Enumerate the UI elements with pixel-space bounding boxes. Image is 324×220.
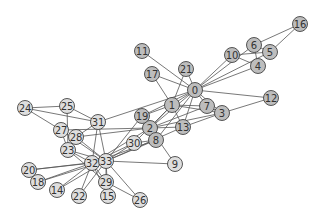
node-24: 24 bbox=[18, 101, 33, 116]
node-label: 27 bbox=[55, 125, 68, 136]
node-label: 5 bbox=[267, 47, 273, 58]
edge-9-33 bbox=[106, 161, 175, 164]
node-27: 27 bbox=[54, 123, 69, 138]
node-33: 33 bbox=[99, 154, 114, 169]
node-label: 21 bbox=[180, 64, 193, 75]
node-21: 21 bbox=[179, 62, 194, 77]
node-label: 10 bbox=[226, 50, 239, 61]
node-label: 30 bbox=[128, 138, 141, 149]
node-22: 22 bbox=[72, 189, 87, 204]
node-30: 30 bbox=[127, 136, 142, 151]
node-label: 11 bbox=[136, 46, 149, 57]
node-25: 25 bbox=[60, 99, 75, 114]
edge-0-4 bbox=[195, 66, 258, 90]
node-label: 19 bbox=[136, 111, 149, 122]
node-label: 22 bbox=[73, 191, 86, 202]
node-label: 15 bbox=[102, 191, 115, 202]
node-label: 24 bbox=[19, 103, 32, 114]
node-label: 4 bbox=[255, 61, 261, 72]
node-4: 4 bbox=[251, 59, 266, 74]
node-label: 0 bbox=[192, 85, 198, 96]
node-23: 23 bbox=[61, 143, 76, 158]
node-layer: 0123456789101112131415161718192021222324… bbox=[18, 17, 308, 208]
edge-0-12 bbox=[195, 90, 271, 98]
node-26: 26 bbox=[133, 193, 148, 208]
node-label: 9 bbox=[172, 159, 178, 170]
node-16: 16 bbox=[293, 17, 308, 32]
node-12: 12 bbox=[264, 91, 279, 106]
node-8: 8 bbox=[149, 133, 164, 148]
node-label: 3 bbox=[219, 108, 225, 119]
node-6: 6 bbox=[247, 38, 262, 53]
node-label: 32 bbox=[86, 158, 99, 169]
node-17: 17 bbox=[145, 67, 160, 82]
node-9: 9 bbox=[168, 157, 183, 172]
node-3: 3 bbox=[215, 106, 230, 121]
node-label: 17 bbox=[146, 69, 159, 80]
node-label: 26 bbox=[134, 195, 147, 206]
node-29: 29 bbox=[99, 175, 114, 190]
node-label: 1 bbox=[169, 100, 175, 111]
node-1: 1 bbox=[165, 98, 180, 113]
node-label: 23 bbox=[62, 145, 75, 156]
node-label: 29 bbox=[100, 177, 113, 188]
node-label: 2 bbox=[147, 123, 153, 134]
node-label: 16 bbox=[294, 19, 307, 30]
node-label: 25 bbox=[61, 101, 74, 112]
node-5: 5 bbox=[263, 45, 278, 60]
node-10: 10 bbox=[225, 48, 240, 63]
node-label: 6 bbox=[251, 40, 257, 51]
node-11: 11 bbox=[135, 44, 150, 59]
node-19: 19 bbox=[135, 109, 150, 124]
network-graph: 0123456789101112131415161718192021222324… bbox=[0, 0, 324, 220]
node-label: 28 bbox=[70, 132, 83, 143]
node-20: 20 bbox=[22, 163, 37, 178]
node-14: 14 bbox=[50, 183, 65, 198]
node-32: 32 bbox=[85, 156, 100, 171]
node-label: 7 bbox=[204, 101, 210, 112]
node-13: 13 bbox=[176, 120, 191, 135]
node-28: 28 bbox=[69, 130, 84, 145]
edge-0-6 bbox=[195, 45, 254, 90]
node-label: 8 bbox=[153, 135, 159, 146]
node-label: 18 bbox=[32, 177, 45, 188]
node-31: 31 bbox=[91, 115, 106, 130]
node-0: 0 bbox=[188, 83, 203, 98]
node-label: 31 bbox=[92, 117, 105, 128]
node-label: 12 bbox=[265, 93, 278, 104]
node-7: 7 bbox=[200, 99, 215, 114]
node-label: 14 bbox=[51, 185, 64, 196]
node-label: 20 bbox=[23, 165, 36, 176]
node-label: 33 bbox=[100, 156, 113, 167]
node-label: 13 bbox=[177, 122, 190, 133]
node-15: 15 bbox=[101, 189, 116, 204]
